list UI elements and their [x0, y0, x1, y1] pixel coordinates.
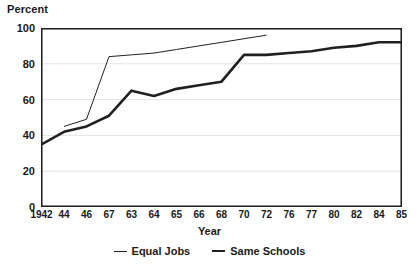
x-axis-tick: 84	[373, 209, 384, 220]
x-axis-tick: 66	[193, 209, 204, 220]
legend-item-label: Same Schools	[230, 245, 305, 257]
x-axis-tick: 68	[216, 209, 227, 220]
plot-frame	[42, 29, 402, 207]
x-axis-tick: 64	[148, 209, 159, 220]
x-axis-tick: 80	[328, 209, 339, 220]
x-axis-tick: 85	[396, 209, 407, 220]
x-axis-tick: 46	[81, 209, 92, 220]
x-axis-tick: 63	[126, 209, 137, 220]
thick-line-swatch	[212, 250, 225, 252]
x-axis-tick: 1942	[30, 209, 52, 220]
x-axis-tick: 82	[351, 209, 362, 220]
thin-line-swatch	[114, 251, 127, 252]
x-axis-tick: 44	[58, 209, 69, 220]
plot-svg	[41, 28, 402, 207]
y-axis-tick: 40	[23, 129, 35, 141]
series-lines	[42, 35, 402, 144]
x-axis-tick: 77	[306, 209, 317, 220]
legend-item-label: Equal Jobs	[132, 245, 191, 257]
legend-item[interactable]: Same Schools	[212, 245, 305, 257]
x-axis-tick: 70	[238, 209, 249, 220]
x-axis-tick: 72	[261, 209, 272, 220]
y-axis-tick: 80	[23, 58, 35, 70]
chart-legend: Equal JobsSame Schools	[0, 245, 419, 257]
y-axis-tick: 20	[23, 165, 35, 177]
y-axis-tick: 60	[23, 94, 35, 106]
legend-item[interactable]: Equal Jobs	[114, 245, 191, 257]
x-axis-tick: 76	[283, 209, 294, 220]
x-axis-tick: 65	[171, 209, 182, 220]
x-axis-label: Year	[0, 225, 419, 237]
plot-area	[41, 28, 402, 207]
x-axis-tick: 67	[103, 209, 114, 220]
series-line-equal-jobs	[64, 35, 267, 126]
y-axis-tick: 100	[17, 22, 35, 34]
chart-figure: Percent 020406080100 1942444667636465666…	[0, 0, 419, 270]
